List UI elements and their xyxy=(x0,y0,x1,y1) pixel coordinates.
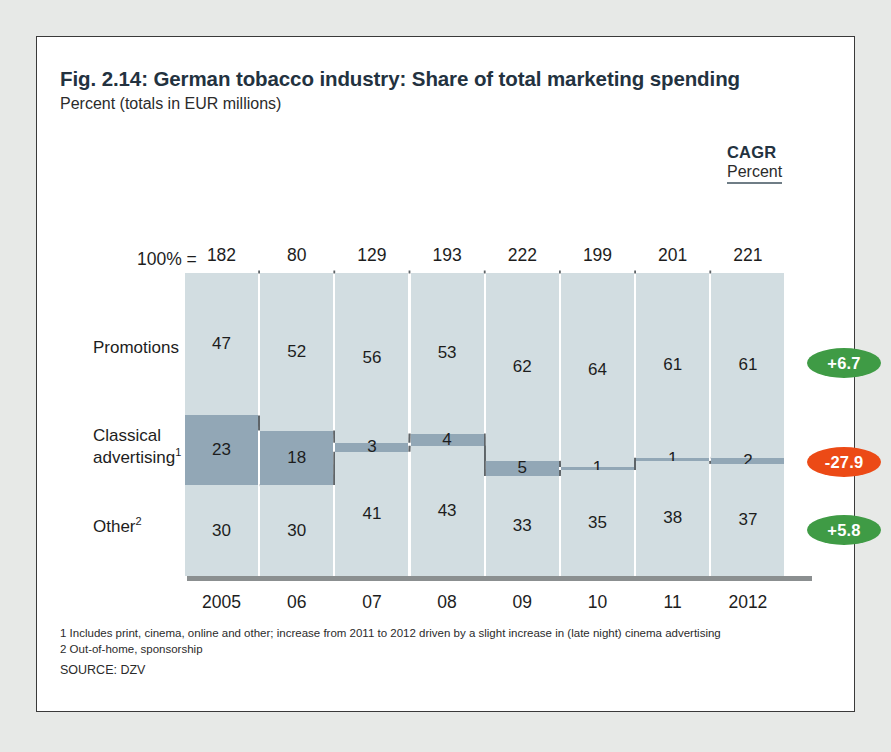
x-axis-tick: 08 xyxy=(411,592,484,613)
x-axis-tick: 2012 xyxy=(711,592,784,613)
bar-column: 61138 xyxy=(636,273,709,576)
segment-value-label: 61 xyxy=(636,356,709,373)
page-background: Fig. 2.14: German tobacco industry: Shar… xyxy=(0,0,891,752)
segment-value-label: 62 xyxy=(486,358,559,375)
segment-value-label: 64 xyxy=(561,361,634,378)
source-note: SOURCE: DZV xyxy=(60,663,145,677)
segment-value-label: 23 xyxy=(185,441,258,458)
footnote-1: 1 Includes print, cinema, online and oth… xyxy=(60,627,721,639)
bar-column: 56341 xyxy=(335,273,408,576)
segment-value-label: 37 xyxy=(711,511,784,528)
segment-value-label: 53 xyxy=(411,344,484,361)
segment-value-label: 38 xyxy=(636,509,709,526)
x-axis-tick: 2005 xyxy=(185,592,258,613)
bar-total-label: 221 xyxy=(711,245,784,266)
segment-value-label: 61 xyxy=(711,356,784,373)
x-axis-tick: 11 xyxy=(636,592,709,613)
bar-total-label: 129 xyxy=(335,245,408,266)
segment-value-label: 47 xyxy=(185,335,258,352)
bar-column: 61237 xyxy=(711,273,784,576)
footnote-2: 2 Out-of-home, sponsorship xyxy=(60,643,203,655)
bar-total-label: 199 xyxy=(561,245,634,266)
segment-value-label: 18 xyxy=(260,449,333,466)
bar-total-label: 201 xyxy=(636,245,709,266)
segment-value-label: 41 xyxy=(335,505,408,522)
x-axis-tick: 07 xyxy=(335,592,408,613)
x-axis-tick: 10 xyxy=(561,592,634,613)
segment-value-label: 56 xyxy=(335,349,408,366)
segment-value-label: 52 xyxy=(260,343,333,360)
segment-value-label: 30 xyxy=(260,522,333,539)
bar-total-label: 80 xyxy=(260,245,333,266)
stacked-bar-chart: 4723301825218308056341129534431936253322… xyxy=(37,37,856,713)
segment-value-label: 43 xyxy=(411,502,484,519)
row-label-classical-advertising: Classicaladvertising1 xyxy=(93,425,181,468)
bar-column: 53443 xyxy=(411,273,484,576)
segment-value-label: 5 xyxy=(486,459,559,476)
segment-value-label: 30 xyxy=(185,522,258,539)
row-label-promotions: Promotions xyxy=(93,337,179,358)
bar-column: 64135 xyxy=(561,273,634,576)
x-axis-tick: 06 xyxy=(260,592,333,613)
row-label-other: Other2 xyxy=(93,515,142,537)
figure-card: Fig. 2.14: German tobacco industry: Shar… xyxy=(36,36,855,712)
axis-baseline xyxy=(187,576,812,581)
bar-column: 62533 xyxy=(486,273,559,576)
segment-value-label: 35 xyxy=(561,514,634,531)
segment-value-label: 33 xyxy=(486,517,559,534)
bar-column: 521830 xyxy=(260,273,333,576)
bar-column: 472330 xyxy=(185,273,258,576)
cagr-pill: +5.8 xyxy=(807,515,881,545)
bar-total-label: 182 xyxy=(185,245,258,266)
bar-total-label: 222 xyxy=(486,245,559,266)
bar-total-label: 193 xyxy=(411,245,484,266)
cagr-pill: -27.9 xyxy=(807,447,881,477)
x-axis-tick: 09 xyxy=(486,592,559,613)
cagr-pill: +6.7 xyxy=(807,348,881,378)
